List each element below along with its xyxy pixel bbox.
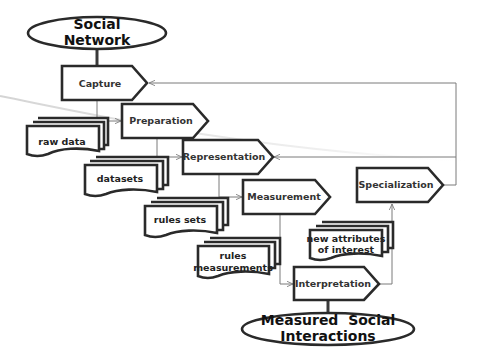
process-measurement: Measurement <box>243 180 330 214</box>
document-label-line-2: of interest <box>318 244 375 255</box>
process-label: Specialization <box>359 179 434 190</box>
terminal-line-1: Measured Social <box>261 312 395 328</box>
process-label: Interpretation <box>295 278 371 289</box>
terminal-line-1: Social <box>73 16 120 32</box>
process-representation: Representation <box>183 140 273 174</box>
edge-representation-measurement <box>219 174 242 197</box>
process-specialization: Specialization <box>357 168 443 202</box>
document-label-line-1: new attributes <box>307 233 386 244</box>
process-capture: Capture <box>62 66 147 100</box>
document-label-line-2: measurements <box>193 262 273 273</box>
document-label: rules sets <box>154 214 207 225</box>
terminal-measured-social-interactions: Measured Social Interactions <box>242 312 414 345</box>
document-label: raw data <box>38 136 85 147</box>
process-label: Representation <box>183 151 266 162</box>
document-new-attributes: new attributes of interest <box>307 222 393 260</box>
process-label: Preparation <box>129 115 193 126</box>
edge-preparation-representation <box>157 138 182 157</box>
document-datasets: datasets <box>85 157 168 196</box>
flowchart-canvas: Social Network Measured Social Interacti… <box>0 0 479 359</box>
document-rules-measurements: rules measurements <box>193 238 280 278</box>
terminal-social-network: Social Network <box>28 16 166 49</box>
document-rules-sets: rules sets <box>145 198 228 237</box>
document-label-line-1: rules <box>220 250 247 261</box>
process-label: Capture <box>79 78 122 89</box>
process-label: Measurement <box>247 191 321 202</box>
terminal-line-2: Network <box>64 32 131 48</box>
document-label: datasets <box>97 173 144 184</box>
process-interpretation: Interpretation <box>294 267 379 300</box>
document-raw-data: raw data <box>27 118 108 156</box>
terminal-line-2: Interactions <box>280 328 375 344</box>
process-preparation: Preparation <box>122 104 208 138</box>
edge-measurement-interpretation <box>280 214 293 284</box>
